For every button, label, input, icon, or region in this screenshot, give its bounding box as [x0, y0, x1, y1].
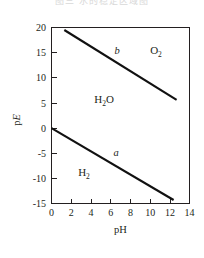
- figure-container: 图三 水的稳定区域图: [0, 0, 204, 258]
- y-tick-label-neg15: -15: [33, 198, 46, 209]
- x-axis-title: pH: [114, 224, 127, 235]
- region-h2-base: H: [78, 166, 86, 178]
- line-a-h2o-h2: [52, 128, 174, 200]
- plot-frame: [52, 28, 190, 204]
- y-tick-label-0: 0: [41, 123, 46, 134]
- region-label-h2: H2: [78, 166, 90, 181]
- y-tick-label-neg10: -10: [33, 173, 46, 184]
- y-axis-title-e: E: [11, 114, 22, 122]
- y-tick-label-5: 5: [41, 98, 46, 109]
- curve-label-b: b: [114, 45, 119, 56]
- y-tick-label-neg5: -5: [38, 148, 46, 159]
- x-tick-label-2: 2: [69, 207, 74, 218]
- region-h2-subscript: 2: [86, 172, 90, 181]
- line-b-o2-h2o: [64, 30, 176, 100]
- y-axis-title: pE: [11, 114, 22, 126]
- x-tick-labels: 0 2 4 6 8 10 12 14: [49, 207, 195, 218]
- region-o2-subscript: 2: [158, 50, 162, 59]
- region-h2o-base2: O: [106, 93, 114, 105]
- x-tick-label-4: 4: [89, 207, 94, 218]
- y-axis-ticks: [52, 28, 57, 204]
- x-tick-label-14: 14: [185, 207, 195, 218]
- x-axis-ticks: [52, 199, 190, 204]
- x-tick-label-8: 8: [128, 207, 133, 218]
- y-tick-label-15: 15: [36, 47, 46, 58]
- x-tick-label-10: 10: [145, 207, 155, 218]
- region-label-o2: O2: [150, 44, 162, 59]
- x-tick-label-6: 6: [108, 207, 113, 218]
- x-tick-label-0: 0: [49, 207, 54, 218]
- pe-ph-stability-diagram: 20 15 10 5 0 -5 -10 -15 0 2 4 6 8 10 12 …: [0, 0, 204, 258]
- region-o2-base: O: [150, 44, 158, 56]
- region-h2o-base1: H: [94, 93, 102, 105]
- y-tick-label-10: 10: [36, 72, 46, 83]
- curve-label-a: a: [113, 147, 118, 158]
- x-tick-label-12: 12: [165, 207, 175, 218]
- y-tick-labels: 20 15 10 5 0 -5 -10 -15: [33, 22, 46, 209]
- plot-border: [52, 28, 190, 204]
- y-tick-label-20: 20: [36, 22, 46, 33]
- region-label-h2o: H2O: [94, 93, 114, 108]
